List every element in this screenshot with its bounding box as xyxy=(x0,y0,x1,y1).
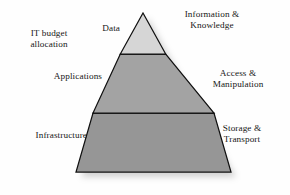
tier-label-applications: Applications xyxy=(30,71,102,82)
pyramid-diagram: IT budget allocation Data Applications I… xyxy=(0,0,290,195)
function-label-access-manipulation: Access & Manipulation xyxy=(190,68,286,91)
function-label-storage-transport: Storage & Transport xyxy=(196,123,288,146)
function-label-information-knowledge: Information & Knowledge xyxy=(158,9,266,32)
tier-label-infrastructure: Infrastructure xyxy=(3,130,87,141)
tier-label-data: Data xyxy=(72,23,120,34)
